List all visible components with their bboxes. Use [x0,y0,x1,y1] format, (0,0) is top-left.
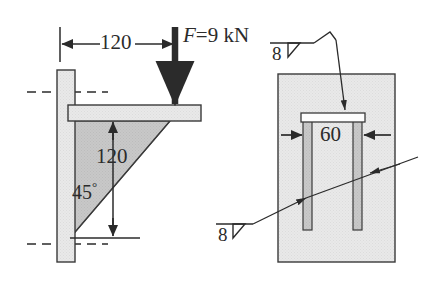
dim-label-60: 60 [320,124,341,145]
figure-canvas: 120 F=9 kN 120 45° 60 8 8 [0,0,421,297]
left-gusset-plate [303,118,312,230]
right-gusset-plate [353,118,362,230]
force-symbol: F [183,23,196,47]
angle-value: 45 [72,181,92,203]
weld-top-leader-line [314,32,336,43]
force-magnitude: 9 [208,23,219,47]
force-equals: = [196,23,208,47]
front-view-group [216,32,418,262]
weld-bottom-fillet-triangle [233,224,245,238]
angle-label-45: 45° [72,180,97,202]
wall-rectangle [278,74,395,262]
weld-top-fillet-triangle [288,43,300,57]
horizontal-top-plate [68,105,201,121]
force-unit: kN [223,23,249,47]
dim-label-120-horizontal: 120 [100,32,132,53]
vertical-wall-plate [57,70,75,262]
weld-size-label-bottom: 8 [218,225,228,244]
front-top-plate [301,113,365,122]
weld-size-label-top: 8 [272,44,282,63]
dim-label-120-vertical: 120 [96,146,128,167]
force-label: F=9 kN [183,25,249,46]
degree-symbol: ° [92,179,97,194]
